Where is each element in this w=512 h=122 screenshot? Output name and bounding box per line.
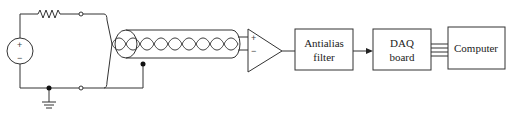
source-minus-label: − xyxy=(17,53,22,63)
data-bus-icon xyxy=(431,44,448,56)
resistor-icon xyxy=(38,10,60,18)
amp-plus-label: + xyxy=(251,33,256,43)
daq-board-box xyxy=(373,29,431,70)
ground-icon xyxy=(42,102,56,108)
terminal-top-icon xyxy=(79,12,83,16)
arrow-right-icon xyxy=(366,48,373,54)
daq-label-line2: board xyxy=(389,51,415,63)
terminal-bottom-icon xyxy=(79,86,83,90)
daq-label-line1: DAQ xyxy=(390,37,414,49)
twisted-pair-cable-icon xyxy=(112,30,240,58)
antialias-filter-box xyxy=(295,29,353,70)
amp-minus-label: − xyxy=(251,46,256,56)
lead-bottom xyxy=(104,44,112,88)
antialias-label-line2: filter xyxy=(313,51,335,63)
diagram-canvas: + − + − Antialias filter DAQ board Compu… xyxy=(0,0,512,122)
lead-top xyxy=(104,14,112,44)
ground-node-icon xyxy=(47,86,52,91)
computer-label: Computer xyxy=(454,42,498,54)
antialias-label-line1: Antialias xyxy=(304,37,344,49)
source-plus-label: + xyxy=(17,40,22,50)
